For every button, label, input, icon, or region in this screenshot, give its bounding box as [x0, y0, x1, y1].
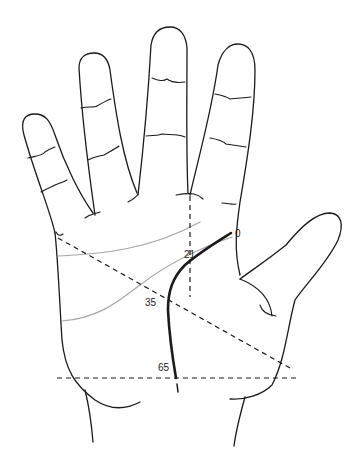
heart-line	[58, 222, 200, 256]
diagonal-dashed-line	[58, 238, 290, 368]
age-labels: 0 21 35 65	[145, 228, 241, 373]
wrist-right	[234, 397, 245, 446]
age-label-0: 0	[235, 228, 241, 239]
thumb-mount-crease	[240, 279, 272, 316]
ring-finger-outline	[79, 53, 137, 215]
reference-lines	[57, 196, 300, 378]
hand-outline	[23, 27, 342, 446]
finger-creases	[28, 78, 251, 235]
age-label-35: 35	[145, 297, 157, 308]
little-finger-outline	[23, 114, 93, 233]
age-label-21: 21	[184, 249, 196, 260]
fate-line-tail	[177, 384, 178, 392]
age-label-65: 65	[158, 362, 170, 373]
thumb-mount-crease-small	[260, 305, 276, 316]
palm-diagram: 0 21 35 65	[0, 0, 364, 469]
middle-finger-outline	[138, 27, 188, 195]
thumb-outline	[230, 213, 341, 399]
